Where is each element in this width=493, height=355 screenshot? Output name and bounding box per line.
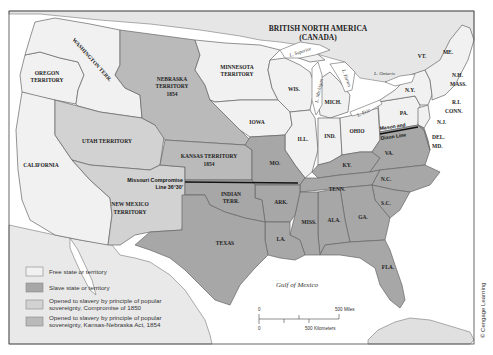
legend-label-free: Free state or territory xyxy=(49,268,108,275)
label-ga: GA. xyxy=(358,214,368,220)
credit-text: © Cengage Learning xyxy=(480,283,486,338)
label-del: DEL. xyxy=(432,134,445,140)
label-la: LA. xyxy=(276,236,286,242)
legend-label-compromise-1850-line1: Opened to slavery by principle of popula… xyxy=(49,297,161,304)
label-gulf-of-mexico: Gulf of Mexico xyxy=(276,281,318,289)
label-new-mexico-1: NEW MEXICO xyxy=(111,201,149,207)
legend-label-slave: Slave state or territory xyxy=(49,284,110,291)
scale-km-label: 500 Kilometers xyxy=(305,326,336,331)
label-missouri-compromise-2: Line 36°30' xyxy=(155,184,183,190)
label-conn: CONN. xyxy=(445,108,463,114)
label-wis: WIS. xyxy=(288,86,301,92)
label-nebraska-2: TERRITORY xyxy=(155,83,188,89)
label-nh: N.H. xyxy=(452,72,464,78)
missouri-compromise-line xyxy=(185,182,298,183)
label-ky: KY. xyxy=(342,162,352,168)
legend-label-kansas-nebraska-line2: sovereignty, Kansas-Nebraska Act, 1854 xyxy=(49,321,161,328)
label-ill: ILL. xyxy=(298,136,309,142)
label-oregon-1: OREGON xyxy=(35,70,59,76)
label-oregon-2: TERRITORY xyxy=(30,77,63,83)
label-mass: MASS. xyxy=(450,81,467,87)
label-nc: N.C. xyxy=(381,176,392,182)
map-container: BRITISH NORTH AMERICA (CANADA) WASHINGTO… xyxy=(0,0,493,355)
label-nebraska-3: 1854 xyxy=(167,91,178,97)
label-iowa: IOWA xyxy=(249,119,264,125)
label-pa: PA. xyxy=(400,110,409,116)
label-kansas-2: 1854 xyxy=(204,161,215,167)
legend-label-kansas-nebraska-line1: Opened to slavery by principle of popula… xyxy=(49,314,161,321)
label-utah: UTAH TERRITORY xyxy=(82,138,132,144)
label-miss: MISS. xyxy=(302,219,317,225)
label-ark: ARK. xyxy=(274,199,288,205)
legend-swatch-compromise-1850 xyxy=(26,300,43,309)
label-texas: TEXAS xyxy=(216,240,234,246)
label-fla: FLA. xyxy=(382,264,395,270)
label-ohio: OHIO xyxy=(350,128,366,134)
label-ny: N.Y. xyxy=(405,87,416,93)
scale-miles-zero: 0 xyxy=(258,307,261,312)
legend-swatch-free xyxy=(26,267,43,276)
label-nj: N.J. xyxy=(437,119,447,125)
label-ri: R.I. xyxy=(452,99,461,105)
label-md: MD. xyxy=(432,143,443,149)
label-mich: MICH. xyxy=(325,99,343,105)
scale-miles-label: 500 Miles xyxy=(335,307,355,312)
label-me: ME. xyxy=(443,49,454,55)
label-british-north-america: BRITISH NORTH AMERICA xyxy=(269,24,368,33)
label-missouri-compromise-1: Missouri Compromise xyxy=(127,177,183,183)
label-california: CALIFORNIA xyxy=(23,162,58,168)
label-indian-2: TERR. xyxy=(223,198,240,204)
label-ala: ALA. xyxy=(328,217,342,223)
legend-swatch-kansas-nebraska xyxy=(26,317,43,326)
label-va: VA. xyxy=(385,150,394,156)
label-sc: S.C. xyxy=(381,200,391,206)
label-minnesota-1: MINNESOTA xyxy=(220,64,254,70)
label-tenn: TENN. xyxy=(329,186,346,192)
label-mo: MO. xyxy=(270,160,281,166)
scale-km-zero: 0 xyxy=(258,326,261,331)
historical-map: BRITISH NORTH AMERICA (CANADA) WASHINGTO… xyxy=(0,0,493,355)
label-minnesota-2: TERRITORY xyxy=(220,71,253,77)
label-lake-ontario: L. Ontario xyxy=(373,71,396,76)
legend-swatch-slave xyxy=(26,283,43,292)
label-nebraska-1: NEBRASKA xyxy=(157,76,188,82)
label-canada: (CANADA) xyxy=(299,33,337,42)
legend-label-compromise-1850-line2: sovereignty, Compromise of 1850 xyxy=(49,304,142,311)
label-indian-1: INDIAN xyxy=(221,191,241,197)
label-ind: IND. xyxy=(324,133,336,139)
label-vt: VT. xyxy=(418,53,427,59)
label-new-mexico-2: TERRITORY xyxy=(113,209,146,215)
label-kansas-1: KANSAS TERRITORY xyxy=(181,153,238,159)
